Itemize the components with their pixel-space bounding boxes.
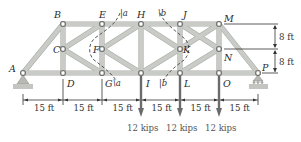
joint-E [100,22,104,26]
truss-svg: 12 kips12 kips12 kips ABCDEFGHIJKLMNOP 1… [0,0,301,142]
joint-C [61,47,65,51]
joint-label-M: M [223,13,234,24]
joint-H [139,22,143,26]
joint-G [100,71,104,75]
joint-label-G: G [105,78,113,89]
section-label-b-bottom: |b [159,78,167,89]
member-FH [102,24,141,49]
member-HK [141,24,180,49]
dim-label-horizontal: 15 ft [230,103,251,113]
joint-label-F: F [92,44,100,55]
joint-label-N: N [223,52,233,63]
joint-A [21,71,25,75]
section-label-a-bottom: \a [113,78,121,88]
joint-label-P: P [261,62,269,73]
joint-L [178,71,182,75]
pin-support-icon [13,75,33,89]
joint-label-E: E [98,9,106,20]
section-label-a-top: |a [120,8,128,19]
load-label-O: 12 kips [205,123,237,133]
dim-label-vertical: 8 ft [279,32,294,42]
member-IK [141,49,180,73]
load-arrows: 12 kips12 kips12 kips [127,76,237,133]
truss-diagram: 12 kips12 kips12 kips ABCDEFGHIJKLMNOP 1… [0,0,301,142]
joint-label-B: B [53,9,61,20]
arrowhead-icon [216,108,222,117]
dim-label-horizontal: 15 ft [191,103,212,113]
arrowhead-icon [138,108,144,117]
joint-M [217,22,221,26]
member-FI [102,49,141,73]
joint-label-K: K [182,44,191,55]
joint-label-I: I [145,78,150,89]
joint-label-O: O [223,78,231,89]
joint-J [178,22,182,26]
joint-label-A: A [8,63,16,74]
joint-K [178,47,182,51]
section-label-b-top: \b [158,8,166,18]
dim-label-vertical: 8 ft [279,57,294,67]
load-label-I: 12 kips [127,123,159,133]
joint-I [139,71,143,75]
joint-label-L: L [183,78,190,89]
dim-label-horizontal: 15 ft [34,103,55,113]
joint-label-J: J [181,9,188,20]
joint-label-C: C [53,44,61,55]
joint-D [61,71,65,75]
roller-support-icon [249,75,268,89]
joint-label-H: H [136,9,146,20]
arrowhead-icon [177,108,183,117]
load-label-L: 12 kips [166,123,198,133]
dim-label-horizontal: 15 ft [152,103,173,113]
dim-label-horizontal: 15 ft [113,103,134,113]
joint-P [256,71,260,75]
joint-label-D: D [66,78,75,89]
joint-O [217,71,221,75]
joint-F [100,47,104,51]
dim-label-horizontal: 15 ft [74,103,95,113]
joint-B [61,22,65,26]
member-MP [219,24,258,73]
joint-N [217,47,221,51]
